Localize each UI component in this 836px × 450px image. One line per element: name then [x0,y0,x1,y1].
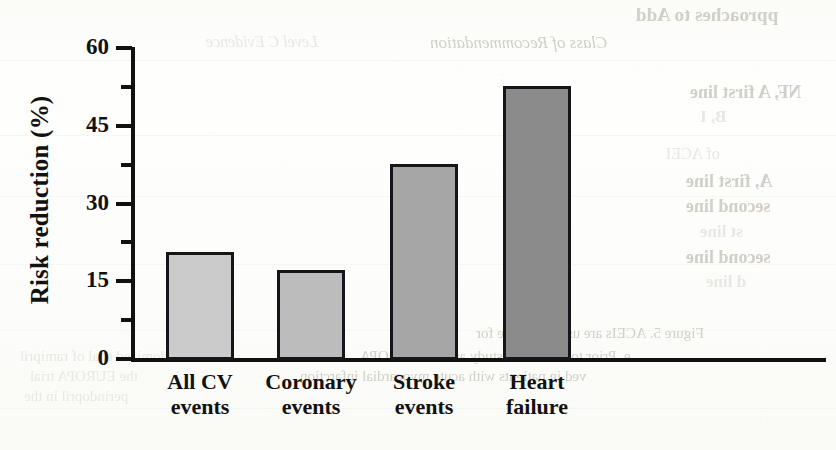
x-axis-category-label-line: Stroke [393,369,455,394]
x-axis-line [131,358,826,362]
bar-stroke-events[interactable] [390,164,458,360]
y-axis-major-tick [116,46,132,50]
x-axis-category-label-line: All CV [167,369,232,394]
y-axis-tick-label: 45 [63,113,109,136]
bar-all-cv-events[interactable] [166,252,234,360]
y-axis-major-tick [116,279,132,283]
y-axis-title-text: Risk reduction (%) [26,96,54,305]
y-axis-tick-label: 60 [63,35,109,58]
y-axis-minor-tick [121,240,132,244]
y-axis-minor-tick [121,318,132,322]
y-axis-tick-label: 15 [63,268,109,291]
x-axis-category-label: Heartfailure [457,370,617,419]
y-axis-major-tick [116,202,132,206]
y-axis-minor-tick [121,85,132,89]
x-axis-category-label-line: failure [457,395,617,420]
y-axis-minor-tick [121,163,132,167]
bar-coronary-events[interactable] [277,270,345,360]
x-axis-category-label-line: Heart [510,369,565,394]
y-axis-tick-label: 0 [63,346,109,369]
y-axis-tick-label: 30 [63,191,109,214]
y-axis-major-tick [116,124,132,128]
bar-heart-failure[interactable] [503,86,571,360]
x-axis-category-label-line: Coronary [265,369,356,394]
y-axis-major-tick [116,357,132,361]
bar-chart: Risk reduction (%) 015304560 All CVevent… [0,0,836,450]
y-axis-title: Risk reduction (%) [18,0,62,400]
